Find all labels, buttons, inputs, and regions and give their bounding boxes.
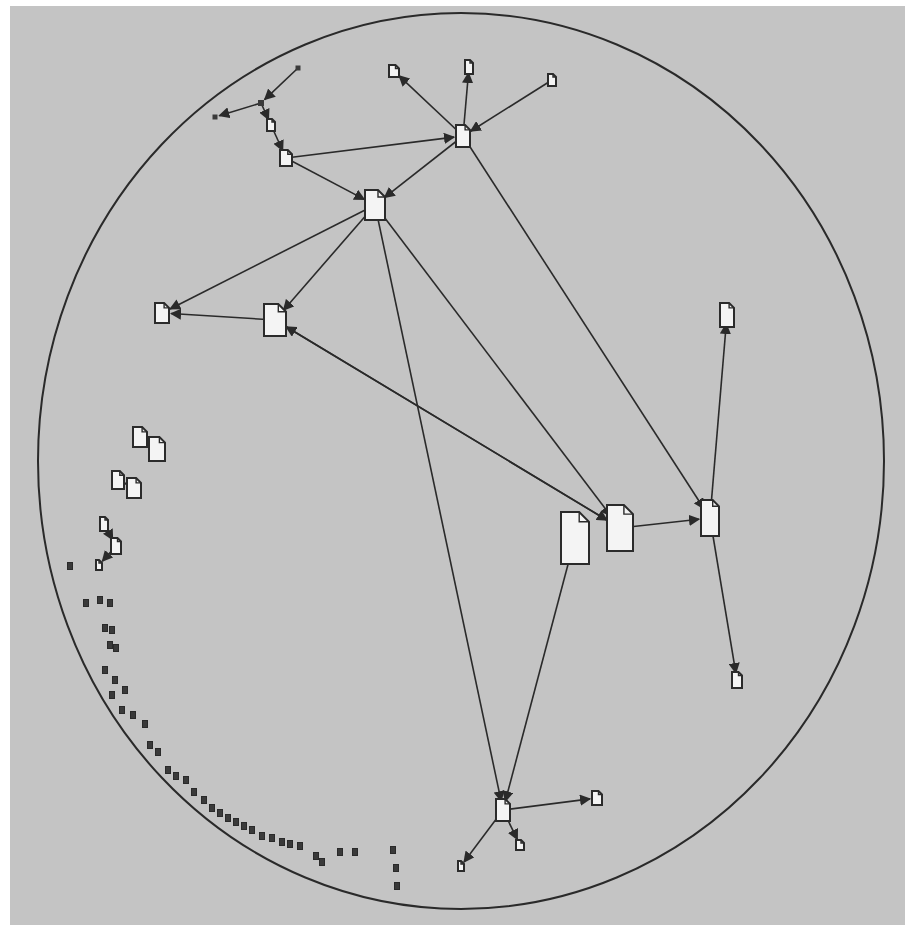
peripheral-node-icon[interactable]	[166, 767, 171, 774]
peripheral-node-icon[interactable]	[103, 625, 108, 632]
peripheral-node-icon[interactable]	[108, 642, 113, 649]
peripheral-node-icon[interactable]	[394, 865, 399, 872]
graph-edge	[284, 205, 375, 310]
peripheral-node-icon[interactable]	[110, 692, 115, 699]
document-node-icon[interactable]	[516, 840, 524, 850]
peripheral-node-icon[interactable]	[113, 677, 118, 684]
graph-edge	[505, 538, 575, 801]
document-node-icon[interactable]	[592, 791, 602, 805]
document-node-icon[interactable]	[112, 471, 124, 489]
document-node-icon[interactable]	[548, 74, 556, 86]
graph-edge	[286, 327, 620, 528]
peripheral-node-icon[interactable]	[103, 667, 108, 674]
graph-edge	[375, 205, 611, 516]
document-node-icon[interactable]	[267, 119, 275, 131]
peripheral-node-icon[interactable]	[123, 687, 128, 694]
peripheral-node-icon[interactable]	[84, 600, 89, 607]
document-node-icon[interactable]	[456, 125, 470, 147]
peripheral-node-icon[interactable]	[98, 597, 103, 604]
peripheral-node-icon[interactable]	[202, 797, 207, 804]
document-node-icon[interactable]	[149, 437, 165, 461]
document-node-icon[interactable]	[458, 861, 464, 871]
document-node-icon[interactable]	[264, 304, 286, 336]
peripheral-node-icon[interactable]	[250, 827, 255, 834]
graph-edge	[710, 518, 736, 673]
document-node-icon[interactable]	[155, 303, 169, 323]
graph-edge	[170, 205, 375, 309]
peripheral-node-icon[interactable]	[226, 815, 231, 822]
peripheral-node-icon[interactable]	[218, 810, 223, 817]
peripheral-node-icon[interactable]	[131, 712, 136, 719]
peripheral-node-icon[interactable]	[174, 773, 179, 780]
peripheral-node-icon[interactable]	[120, 707, 125, 714]
peripheral-node-icon[interactable]	[110, 627, 115, 634]
peripheral-node-icon[interactable]	[260, 833, 265, 840]
graph-edge	[471, 80, 552, 131]
graph-edge	[219, 103, 261, 116]
peripheral-node-icon[interactable]	[192, 789, 197, 796]
graph-edge	[710, 324, 726, 518]
edge-layer	[102, 68, 736, 862]
document-node-icon[interactable]	[607, 505, 633, 551]
peripheral-node-icon[interactable]	[210, 805, 215, 812]
document-node-icon[interactable]	[96, 560, 102, 570]
graph-junction-node[interactable]	[258, 100, 264, 106]
document-node-icon[interactable]	[465, 60, 473, 74]
peripheral-node-icon[interactable]	[320, 859, 325, 866]
peripheral-node-icon[interactable]	[108, 600, 113, 607]
peripheral-node-icon[interactable]	[242, 823, 247, 830]
graph-edge	[503, 799, 590, 810]
peripheral-node-icon[interactable]	[143, 721, 148, 728]
peripheral-node-icon[interactable]	[156, 749, 161, 756]
graph-edge	[265, 68, 298, 100]
graph-junction-node[interactable]	[213, 115, 218, 120]
graph-edge	[286, 158, 364, 199]
node-layer	[96, 60, 742, 871]
hyperbolic-graph-view[interactable]	[0, 0, 916, 932]
graph-edge	[463, 136, 704, 509]
document-node-icon[interactable]	[732, 672, 742, 688]
graph-junction-node[interactable]	[296, 66, 301, 71]
document-node-icon[interactable]	[720, 303, 734, 327]
graph-edge	[375, 205, 501, 801]
peripheral-node-icon[interactable]	[338, 849, 343, 856]
peripheral-node-icon[interactable]	[270, 835, 275, 842]
peripheral-node-icon[interactable]	[298, 843, 303, 850]
peripheral-node-icon[interactable]	[68, 563, 73, 570]
peripheral-node-icon[interactable]	[280, 839, 285, 846]
peripheral-node-icon[interactable]	[353, 849, 358, 856]
peripheral-node-icon[interactable]	[314, 853, 319, 860]
document-node-icon[interactable]	[365, 190, 385, 220]
peripheral-node-icon[interactable]	[395, 883, 400, 890]
document-node-icon[interactable]	[100, 517, 108, 531]
document-node-icon[interactable]	[701, 500, 719, 536]
graph-edge	[384, 136, 463, 198]
peripheral-node-icon[interactable]	[391, 847, 396, 854]
peripheral-node-icon[interactable]	[184, 777, 189, 784]
document-node-icon[interactable]	[127, 478, 141, 498]
peripheral-node-icon[interactable]	[234, 819, 239, 826]
peripheral-node-icon[interactable]	[148, 742, 153, 749]
graph-edge	[171, 314, 275, 320]
document-node-icon[interactable]	[389, 65, 399, 77]
peripheral-node-icon[interactable]	[288, 841, 293, 848]
document-node-icon[interactable]	[133, 427, 147, 447]
peripheral-node-layer	[68, 563, 400, 890]
document-node-icon[interactable]	[496, 799, 510, 821]
peripheral-node-icon[interactable]	[114, 645, 119, 652]
document-node-icon[interactable]	[561, 512, 589, 564]
document-node-icon[interactable]	[111, 538, 121, 554]
graph-edge	[286, 137, 454, 158]
graph-edge	[399, 76, 463, 136]
document-node-icon[interactable]	[280, 150, 292, 166]
